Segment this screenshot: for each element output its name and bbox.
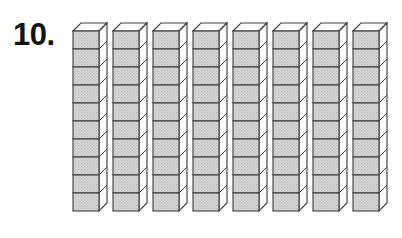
unit-cube-icon [353, 85, 379, 103]
unit-cube-icon [233, 139, 259, 157]
unit-cube-icon [233, 49, 259, 67]
unit-cube-icon [73, 175, 99, 193]
unit-cube-icon [353, 103, 379, 121]
ten-rod-icon [232, 22, 268, 212]
unit-cube-icon [193, 49, 219, 67]
unit-cube-icon [313, 31, 339, 49]
unit-cube-icon [153, 193, 179, 211]
unit-cube-icon [153, 49, 179, 67]
unit-cube-icon [353, 121, 379, 139]
unit-cube-icon [273, 103, 299, 121]
unit-cube-icon [193, 103, 219, 121]
unit-cube-icon [233, 157, 259, 175]
ten-rod-icon [112, 22, 148, 212]
unit-cube-icon [313, 157, 339, 175]
unit-cube-icon [273, 157, 299, 175]
unit-cube-icon [153, 85, 179, 103]
unit-cube-icon [353, 31, 379, 49]
unit-cube-icon [273, 49, 299, 67]
unit-cube-icon [233, 175, 259, 193]
unit-cube-icon [313, 139, 339, 157]
unit-cube-icon [113, 103, 139, 121]
unit-cube-icon [153, 67, 179, 85]
unit-cube-icon [113, 85, 139, 103]
ten-rod-icon [352, 22, 388, 212]
unit-cube-icon [193, 85, 219, 103]
unit-cube-icon [153, 31, 179, 49]
ten-rod-icon [72, 22, 108, 212]
unit-cube-icon [113, 31, 139, 49]
unit-cube-icon [193, 157, 219, 175]
unit-cube-icon [233, 85, 259, 103]
unit-cube-icon [353, 139, 379, 157]
ten-rod-5 [232, 22, 268, 212]
unit-cube-icon [73, 31, 99, 49]
ten-rod-3 [152, 22, 188, 212]
unit-cube-icon [113, 67, 139, 85]
unit-cube-icon [353, 49, 379, 67]
unit-cube-icon [73, 85, 99, 103]
unit-cube-icon [273, 193, 299, 211]
unit-cube-icon [313, 85, 339, 103]
unit-cube-icon [73, 157, 99, 175]
unit-cube-icon [353, 157, 379, 175]
unit-cube-icon [193, 193, 219, 211]
unit-cube-icon [153, 139, 179, 157]
unit-cube-icon [153, 121, 179, 139]
base-ten-rods-group [72, 22, 394, 222]
ten-rod-7 [312, 22, 348, 212]
unit-cube-icon [113, 49, 139, 67]
ten-rod-1 [72, 22, 108, 212]
unit-cube-icon [273, 85, 299, 103]
unit-cube-icon [313, 121, 339, 139]
unit-cube-icon [273, 67, 299, 85]
unit-cube-icon [193, 175, 219, 193]
unit-cube-icon [353, 193, 379, 211]
unit-cube-icon [153, 175, 179, 193]
ten-rod-4 [192, 22, 228, 212]
unit-cube-icon [113, 175, 139, 193]
unit-cube-icon [113, 121, 139, 139]
ten-rod-icon [312, 22, 348, 212]
ten-rod-icon [192, 22, 228, 212]
unit-cube-icon [113, 157, 139, 175]
unit-cube-icon [313, 49, 339, 67]
unit-cube-icon [233, 121, 259, 139]
unit-cube-icon [273, 139, 299, 157]
unit-cube-icon [73, 67, 99, 85]
ten-rod-6 [272, 22, 308, 212]
unit-cube-icon [73, 49, 99, 67]
unit-cube-icon [153, 157, 179, 175]
unit-cube-icon [313, 103, 339, 121]
unit-cube-icon [193, 31, 219, 49]
unit-cube-icon [193, 121, 219, 139]
unit-cube-icon [73, 121, 99, 139]
unit-cube-icon [353, 175, 379, 193]
problem-number-label: 10. [13, 19, 55, 50]
unit-cube-icon [273, 175, 299, 193]
unit-cube-icon [273, 121, 299, 139]
unit-cube-icon [233, 67, 259, 85]
ten-rod-8 [352, 22, 388, 212]
unit-cube-icon [153, 103, 179, 121]
unit-cube-icon [313, 193, 339, 211]
ten-rod-2 [112, 22, 148, 212]
unit-cube-icon [73, 103, 99, 121]
worksheet-canvas: 10. [0, 0, 402, 238]
unit-cube-icon [233, 31, 259, 49]
unit-cube-icon [73, 139, 99, 157]
unit-cube-icon [193, 139, 219, 157]
unit-cube-icon [113, 139, 139, 157]
unit-cube-icon [313, 175, 339, 193]
unit-cube-icon [113, 193, 139, 211]
unit-cube-icon [313, 67, 339, 85]
ten-rod-icon [272, 22, 308, 212]
unit-cube-icon [233, 103, 259, 121]
unit-cube-icon [73, 193, 99, 211]
unit-cube-icon [273, 31, 299, 49]
unit-cube-icon [233, 193, 259, 211]
unit-cube-icon [193, 67, 219, 85]
unit-cube-icon [353, 67, 379, 85]
ten-rod-icon [152, 22, 188, 212]
